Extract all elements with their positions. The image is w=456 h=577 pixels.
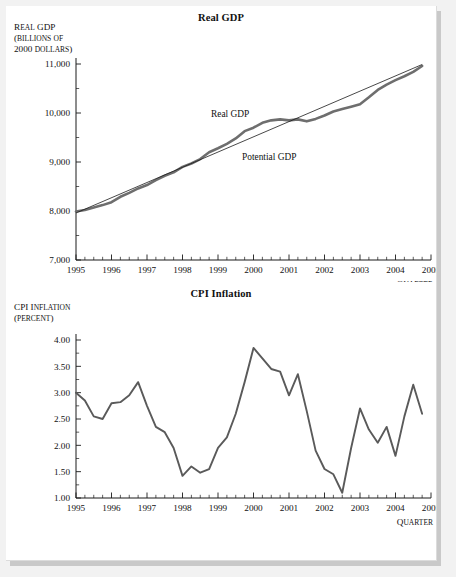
chart-cpi-inflation: 1.001.502.002.503.003.504.00199519961997… bbox=[6, 288, 436, 556]
y-tick-label: 10,000 bbox=[45, 108, 71, 118]
y-tick-label: 2.00 bbox=[54, 441, 70, 451]
y-tick-label: 3.00 bbox=[54, 388, 70, 398]
series-annotation-potential: Potential GDP bbox=[242, 152, 296, 162]
x-tick-label: 2003 bbox=[351, 265, 370, 275]
x-tick-label: 2003 bbox=[351, 503, 370, 513]
y-tick-label: 7,000 bbox=[49, 255, 70, 265]
x-tick-label: 1997 bbox=[138, 503, 157, 513]
series-annotation-real: Real GDP bbox=[211, 109, 249, 119]
axis-caption-text: 2000 DOLLARS) bbox=[14, 44, 72, 54]
x-tick-label: 2000 bbox=[244, 265, 263, 275]
series-line-cpi-inflation bbox=[76, 348, 422, 493]
y-tick-label: 8,000 bbox=[49, 206, 70, 216]
y-tick-label: 3.50 bbox=[54, 362, 70, 372]
x-tick-label: 2005 bbox=[422, 503, 436, 513]
x-tick-label: 2004 bbox=[386, 265, 405, 275]
axis-caption-text: CPI INFLATION bbox=[14, 302, 71, 312]
x-tick-label: 2004 bbox=[386, 503, 405, 513]
x-tick-label: 1996 bbox=[102, 503, 121, 513]
figure-title-cpi-inflation: CPI Inflation bbox=[6, 288, 436, 299]
x-tick-label: 1995 bbox=[67, 265, 86, 275]
series-line-potential-gdp bbox=[76, 64, 422, 212]
x-axis-caption: QUARTER bbox=[397, 517, 433, 527]
y-tick-label: 9,000 bbox=[49, 157, 70, 167]
y-tick-label: 4.00 bbox=[54, 335, 70, 345]
x-tick-label: 1998 bbox=[173, 503, 192, 513]
x-tick-label: 1998 bbox=[173, 265, 192, 275]
x-tick-label: 1999 bbox=[209, 265, 228, 275]
axis-frame bbox=[76, 334, 431, 498]
x-axis-caption: QUARTER bbox=[397, 279, 433, 282]
chart-real-gdp: 7,0008,0009,00010,00011,0001995199619971… bbox=[6, 12, 436, 282]
axis-caption-text: REAL GDP bbox=[14, 22, 55, 32]
y-tick-label: 2.50 bbox=[54, 414, 70, 424]
x-tick-label: 2001 bbox=[280, 503, 299, 513]
x-tick-label: 1995 bbox=[67, 503, 86, 513]
x-tick-label: 2002 bbox=[315, 265, 334, 275]
axis-caption-text: (BILLIONS OF bbox=[14, 33, 63, 43]
x-tick-label: 1996 bbox=[102, 265, 121, 275]
x-tick-label: 2000 bbox=[244, 503, 263, 513]
figure-real-gdp: Real GDP 7,0008,0009,00010,00011,0001995… bbox=[6, 12, 436, 282]
x-tick-label: 2002 bbox=[315, 503, 334, 513]
x-tick-label: 1997 bbox=[138, 265, 157, 275]
figure-title-real-gdp: Real GDP bbox=[6, 12, 436, 23]
axis-caption-text: (PERCENT) bbox=[14, 313, 53, 323]
x-tick-label: 1999 bbox=[209, 503, 228, 513]
figure-cpi-inflation: CPI Inflation 1.001.502.002.503.003.504.… bbox=[6, 288, 436, 556]
x-tick-label: 2001 bbox=[280, 265, 299, 275]
y-tick-label: 1.50 bbox=[54, 467, 70, 477]
x-tick-label: 2005 bbox=[422, 265, 436, 275]
y-tick-label: 11,000 bbox=[45, 59, 70, 69]
document-page: Real GDP 7,0008,0009,00010,00011,0001995… bbox=[6, 6, 437, 561]
y-tick-label: 1.00 bbox=[54, 493, 70, 503]
